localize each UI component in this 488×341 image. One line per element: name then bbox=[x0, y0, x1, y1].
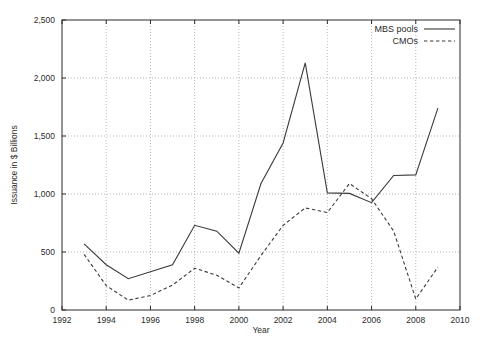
y-axis-title: Issuance in $ Billions bbox=[9, 125, 19, 204]
x-tick-label: 2004 bbox=[318, 315, 337, 325]
chart-legend: MBS poolsCMOs bbox=[374, 24, 455, 46]
x-tick-label: 2010 bbox=[451, 315, 470, 325]
y-gridlines bbox=[62, 78, 460, 252]
x-tick-label: 1998 bbox=[185, 315, 204, 325]
y-tick-label: 1,000 bbox=[34, 189, 56, 199]
x-tick-label: 1994 bbox=[97, 315, 116, 325]
data-series-group bbox=[84, 63, 438, 300]
x-tick-label: 2006 bbox=[362, 315, 381, 325]
x-tick-label: 2002 bbox=[274, 315, 293, 325]
legend-label-cmos: CMOs bbox=[393, 36, 419, 46]
x-tick-label: 2008 bbox=[406, 315, 425, 325]
legend-label-mbs-pools: MBS pools bbox=[374, 24, 418, 34]
x-tick-labels: 1992199419961998200020022004200620082010 bbox=[53, 315, 470, 325]
line-chart: 05001,0001,5002,0002,500 199219941996199… bbox=[0, 0, 488, 341]
y-tick-label: 0 bbox=[50, 305, 55, 315]
x-tick-label: 1996 bbox=[141, 315, 160, 325]
y-tick-label: 500 bbox=[41, 247, 55, 257]
series-line-cmos bbox=[84, 184, 438, 301]
x-axis-title: Year bbox=[252, 325, 269, 335]
y-tick-labels: 05001,0001,5002,0002,500 bbox=[34, 15, 56, 315]
x-tickmarks bbox=[62, 20, 460, 310]
y-tick-label: 2,500 bbox=[34, 15, 56, 25]
series-line-mbs-pools bbox=[84, 63, 438, 279]
y-tick-label: 1,500 bbox=[34, 131, 56, 141]
x-tick-label: 1992 bbox=[53, 315, 72, 325]
x-tick-label: 2000 bbox=[229, 315, 248, 325]
x-gridlines bbox=[106, 20, 416, 310]
y-tickmarks bbox=[62, 20, 66, 310]
chart-container: 05001,0001,5002,0002,500 199219941996199… bbox=[0, 0, 488, 341]
plot-frame bbox=[62, 20, 460, 310]
y-tick-label: 2,000 bbox=[34, 73, 56, 83]
plot-area-border bbox=[62, 20, 460, 310]
